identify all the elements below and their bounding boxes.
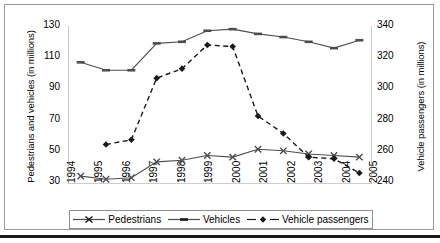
legend-label-vehicle-passengers: Vehicle passengers bbox=[282, 214, 369, 225]
legend-item-vehicle-passengers[interactable]: Vehicle passengers bbox=[247, 214, 369, 225]
right-tick-340: 340 bbox=[377, 20, 407, 30]
point-marker-diamond bbox=[356, 170, 363, 177]
chart-frame: Pedestrians and vehicles (in millions) V… bbox=[4, 4, 434, 230]
diamond-marker-icon bbox=[247, 214, 279, 225]
series-line bbox=[106, 45, 359, 173]
legend-item-vehicles[interactable]: Vehicles bbox=[168, 214, 240, 225]
point-marker-diamond bbox=[153, 75, 160, 82]
chart-page: Pedestrians and vehicles (in millions) V… bbox=[0, 0, 440, 243]
dash-marker-icon bbox=[168, 214, 200, 225]
point-marker-dash bbox=[330, 47, 338, 50]
x-marker-icon bbox=[73, 214, 105, 225]
point-marker-diamond bbox=[331, 155, 338, 162]
axis-lines bbox=[68, 26, 372, 184]
series-vehicle-passengers bbox=[103, 42, 363, 177]
point-marker-dash bbox=[153, 42, 161, 45]
left-tick-90: 90 bbox=[30, 82, 60, 92]
point-marker-diamond bbox=[103, 141, 110, 148]
point-marker-dash bbox=[127, 69, 135, 72]
plot-area bbox=[68, 26, 372, 184]
point-marker-dash bbox=[178, 41, 186, 44]
right-tick-300: 300 bbox=[377, 82, 407, 92]
left-axis-title: Pedestrians and vehicles (in millions) bbox=[25, 22, 36, 192]
point-marker-dash bbox=[102, 69, 110, 72]
left-tick-30: 30 bbox=[30, 176, 60, 186]
legend-label-pedestrians: Pedestrians bbox=[108, 214, 161, 225]
right-axis-title: Vehicle passengers (in millions) bbox=[415, 22, 426, 192]
point-marker-dash bbox=[355, 39, 363, 42]
plot-svg bbox=[68, 26, 372, 184]
series-pedestrians bbox=[77, 146, 362, 182]
left-tick-110: 110 bbox=[30, 51, 60, 61]
right-tick-320: 320 bbox=[377, 51, 407, 61]
left-tick-130: 130 bbox=[30, 20, 60, 30]
point-marker-dash bbox=[229, 28, 237, 31]
point-marker-dash bbox=[77, 61, 85, 64]
axis-ticks bbox=[68, 26, 372, 184]
left-tick-50: 50 bbox=[30, 145, 60, 155]
right-tick-240: 240 bbox=[377, 176, 407, 186]
series-vehicles bbox=[77, 28, 364, 72]
bottom-rule bbox=[0, 235, 440, 238]
point-marker-dash bbox=[254, 33, 262, 36]
point-marker-dash bbox=[305, 41, 313, 44]
legend-item-pedestrians[interactable]: Pedestrians bbox=[73, 214, 161, 225]
right-tick-280: 280 bbox=[377, 114, 407, 124]
right-tick-260: 260 bbox=[377, 145, 407, 155]
point-marker-diamond bbox=[128, 136, 135, 143]
series-line bbox=[81, 29, 360, 70]
point-marker-diamond bbox=[229, 43, 236, 50]
chart-legend: Pedestrians Vehicles Vehicle passengers bbox=[69, 210, 373, 229]
point-marker-dash bbox=[203, 29, 211, 32]
point-marker-diamond bbox=[204, 42, 211, 49]
legend-label-vehicles: Vehicles bbox=[203, 214, 240, 225]
series-line bbox=[81, 149, 360, 179]
left-tick-70: 70 bbox=[30, 114, 60, 124]
point-marker-dash bbox=[279, 36, 287, 39]
